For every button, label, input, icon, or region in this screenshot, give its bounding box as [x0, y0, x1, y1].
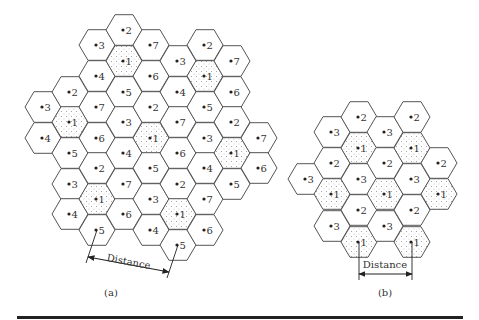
base-station-dot-icon — [94, 166, 97, 169]
cell-number-label: 5 — [180, 240, 186, 251]
cell-number-label: 4 — [99, 71, 105, 82]
base-station-dot-icon — [356, 177, 359, 180]
base-station-dot-icon — [67, 182, 70, 185]
cell-number-label: 2 — [153, 102, 159, 113]
cell-number-label: 3 — [308, 174, 314, 185]
base-station-dot-icon — [229, 90, 232, 93]
cell-number-label: 6 — [207, 225, 213, 236]
base-station-dot-icon — [436, 192, 439, 195]
base-station-dot-icon — [67, 90, 70, 93]
base-station-dot-icon — [436, 161, 439, 164]
base-station-dot-icon — [409, 146, 412, 149]
base-station-dot-icon — [202, 166, 205, 169]
distance-label: Distance — [363, 259, 407, 270]
base-station-dot-icon — [409, 177, 412, 180]
cell-number-label: 7 — [126, 179, 132, 190]
cell-number-label: 6 — [126, 209, 132, 220]
cell-number-label: 5 — [126, 87, 132, 98]
base-station-dot-icon — [67, 151, 70, 154]
panel-a-seven-cell-cluster: 3421534347621521534767621534347621521534… — [25, 15, 277, 298]
cell-number-label: 3 — [153, 194, 159, 205]
base-station-dot-icon — [409, 115, 412, 118]
base-station-dot-icon — [148, 74, 151, 77]
base-station-dot-icon — [202, 105, 205, 108]
base-station-dot-icon — [356, 146, 359, 149]
base-station-dot-icon — [121, 28, 124, 31]
cell-number-label: 3 — [334, 221, 340, 232]
base-station-dot-icon — [382, 161, 385, 164]
base-station-dot-icon — [175, 151, 178, 154]
cell-number-label: 3 — [387, 127, 393, 138]
base-station-dot-icon — [94, 228, 97, 231]
base-station-dot-icon — [409, 208, 412, 211]
cell-number-label: 2 — [126, 25, 132, 36]
cell-number-label: 4 — [126, 148, 132, 159]
cell-number-label: 5 — [153, 163, 159, 174]
cell-number-label: 1 — [414, 143, 420, 154]
base-station-dot-icon — [121, 212, 124, 215]
base-station-dot-icon — [202, 228, 205, 231]
cell-number-label: 1 — [387, 189, 393, 200]
base-station-dot-icon — [329, 224, 332, 227]
cell-number-label: 3 — [207, 133, 213, 144]
base-station-dot-icon — [229, 182, 232, 185]
base-station-dot-icon — [121, 120, 124, 123]
cell-number-label: 3 — [45, 102, 51, 113]
base-station-dot-icon — [148, 228, 151, 231]
base-station-dot-icon — [303, 177, 306, 180]
cell-number-label: 7 — [180, 117, 186, 128]
cell-number-label: 4 — [180, 87, 186, 98]
base-station-dot-icon — [202, 43, 205, 46]
base-station-dot-icon — [67, 120, 70, 123]
base-station-dot-icon — [94, 197, 97, 200]
cell-number-label: 6 — [180, 148, 186, 159]
cell-number-label: 3 — [126, 117, 132, 128]
base-station-dot-icon — [94, 43, 97, 46]
cell-number-label: 4 — [45, 133, 51, 144]
cell-number-label: 2 — [361, 205, 367, 216]
base-station-dot-icon — [121, 90, 124, 93]
cell-number-label: 1 — [207, 71, 213, 82]
cell-number-label: 2 — [334, 158, 340, 169]
cell-number-label: 3 — [387, 221, 393, 232]
base-station-dot-icon — [329, 161, 332, 164]
cell-number-label: 5 — [207, 102, 213, 113]
base-station-dot-icon — [256, 166, 259, 169]
cell-number-label: 2 — [180, 179, 186, 190]
cell-number-label: 3 — [334, 127, 340, 138]
cell-number-label: 2 — [207, 40, 213, 51]
cell-number-label: 1 — [126, 56, 132, 67]
base-station-dot-icon — [40, 105, 43, 108]
base-station-dot-icon — [121, 59, 124, 62]
cell-number-label: 1 — [361, 237, 367, 248]
base-station-dot-icon — [202, 74, 205, 77]
cell-number-label: 1 — [441, 189, 447, 200]
cell-number-label: 3 — [99, 40, 105, 51]
cell-number-label: 2 — [234, 117, 240, 128]
cell-number-label: 1 — [334, 189, 340, 200]
base-station-dot-icon — [256, 136, 259, 139]
cell-number-label: 1 — [153, 133, 159, 144]
base-station-dot-icon — [175, 182, 178, 185]
base-station-dot-icon — [202, 136, 205, 139]
cell-number-label: 5 — [99, 225, 105, 236]
bottom-rule-divider — [17, 316, 463, 319]
panel-caption: (a) — [104, 287, 118, 298]
base-station-dot-icon — [382, 224, 385, 227]
base-station-dot-icon — [229, 120, 232, 123]
cell-number-label: 7 — [153, 40, 159, 51]
panel-b-three-cell-cluster: 332132132132132132121Distance(b) — [288, 102, 457, 298]
base-station-dot-icon — [356, 208, 359, 211]
base-station-dot-icon — [175, 212, 178, 215]
base-station-dot-icon — [175, 90, 178, 93]
cell-number-label: 3 — [180, 56, 186, 67]
cell-number-label: 4 — [153, 225, 159, 236]
base-station-dot-icon — [382, 130, 385, 133]
cell-number-label: 3 — [72, 179, 78, 190]
base-station-dot-icon — [175, 120, 178, 123]
cell-number-label: 2 — [414, 205, 420, 216]
base-station-dot-icon — [329, 130, 332, 133]
base-station-dot-icon — [94, 105, 97, 108]
base-station-dot-icon — [175, 243, 178, 246]
base-station-dot-icon — [382, 192, 385, 195]
